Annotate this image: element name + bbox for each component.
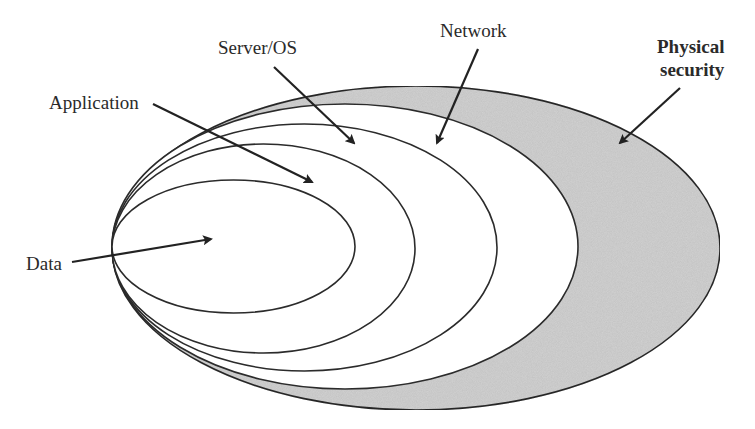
server-os-label: Server/OS <box>218 37 297 58</box>
data-label: Data <box>26 253 62 274</box>
data-layer <box>112 180 355 313</box>
physical-security-label-line2: security <box>660 59 725 80</box>
physical-security-label-line1: Physical <box>657 36 725 57</box>
application-label: Application <box>49 92 139 113</box>
physical-security-arrow <box>620 88 680 143</box>
network-label: Network <box>440 20 507 41</box>
security-layers-diagram: Data Application Server/OS Network Physi… <box>0 0 755 429</box>
